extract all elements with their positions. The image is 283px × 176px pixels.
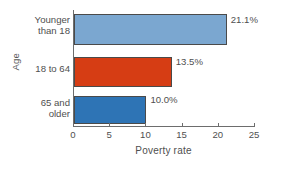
x-tick-label-20: 20: [208, 130, 228, 140]
x-tick-label-5: 5: [99, 130, 119, 140]
bar-18-to-64: [74, 57, 172, 87]
x-tick-label-10: 10: [135, 130, 155, 140]
x-tick-15: [182, 123, 183, 127]
plot-area: [73, 10, 254, 127]
x-tick-label-25: 25: [244, 130, 264, 140]
poverty-rate-bar-chart: Age Younger than 18 18 to 64 65 and olde…: [0, 0, 283, 176]
category-label-65-and-older: 65 and older: [12, 97, 70, 120]
category-label-column: Younger than 18 18 to 64 65 and older: [12, 0, 70, 176]
x-tick-0: [73, 123, 74, 127]
x-tick-label-0: 0: [63, 130, 83, 140]
category-label-18-to-64: 18 to 64: [12, 63, 70, 74]
x-tick-25: [254, 123, 255, 127]
x-axis-title: Poverty rate: [73, 146, 254, 156]
x-tick-10: [145, 123, 146, 127]
x-tick-20: [218, 123, 219, 127]
bar-value-younger-than-18: 21.1%: [231, 15, 258, 25]
category-label-younger-than-18: Younger than 18: [12, 14, 70, 37]
x-tick-label-15: 15: [172, 130, 192, 140]
x-axis-line: [73, 126, 254, 127]
bar-value-18-to-64: 13.5%: [176, 57, 203, 67]
bar-65-and-older: [74, 96, 146, 124]
bar-value-65-and-older: 10.0%: [150, 95, 177, 105]
x-tick-5: [109, 123, 110, 127]
bar-younger-than-18: [74, 14, 227, 45]
